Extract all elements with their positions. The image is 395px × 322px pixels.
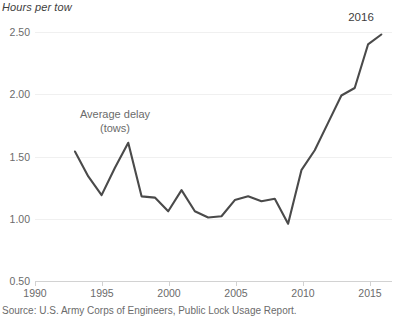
series-annotation-average-delay: Average delay (tows) bbox=[60, 108, 170, 136]
plot-area bbox=[0, 0, 395, 322]
chart-container: Hours per tow 2.50 2.00 1.50 1.00 0.50 1… bbox=[0, 0, 395, 322]
endpoint-annotation-2016: 2016 bbox=[336, 10, 386, 24]
series-annotation-line2: (tows) bbox=[100, 122, 130, 134]
series-annotation-line1: Average delay bbox=[80, 108, 150, 120]
source-note: Source: U.S. Army Corps of Engineers, Pu… bbox=[2, 305, 297, 316]
